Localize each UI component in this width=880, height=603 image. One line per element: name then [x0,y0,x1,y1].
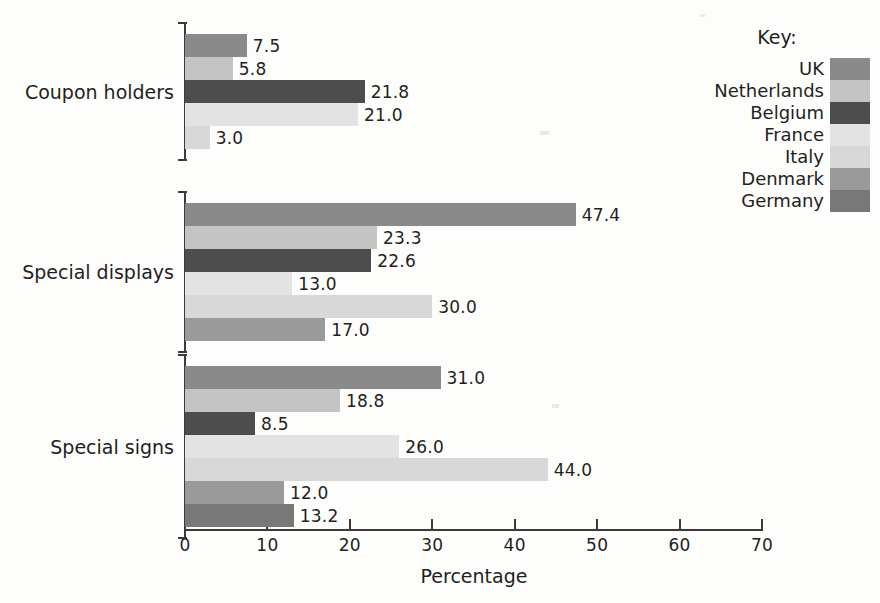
bar [185,80,365,103]
x-axis-tick-label: 40 [504,535,526,555]
x-axis-tick [514,519,516,530]
bar-value-label: 30.0 [438,297,477,317]
bar [185,203,576,226]
bar-value-label: 47.4 [582,205,621,225]
bar-value-label: 21.8 [371,82,410,102]
category-label: Special signs [50,436,174,458]
legend-swatches [830,58,870,212]
bar-value-label: 21.0 [364,105,403,125]
bar [185,272,292,295]
bar-value-label: 12.0 [290,483,329,503]
legend-item-label: Italy [714,146,830,168]
y-axis-cap [178,22,187,24]
x-axis-tick-label: 50 [586,535,608,555]
legend-swatch [830,190,870,212]
bar [185,458,548,481]
x-axis-tick-label: 60 [668,535,690,555]
x-axis-tick-label: 30 [421,535,443,555]
bar [185,34,247,57]
bar [185,249,371,272]
bar [185,103,358,126]
legend-swatch [830,102,870,124]
bar-value-label: 22.6 [377,251,416,271]
y-axis-cap [178,351,187,353]
legend-swatch [830,146,870,168]
legend-swatch [830,168,870,190]
bar-value-label: 13.0 [298,274,337,294]
bar [185,481,284,504]
bar-value-label: 23.3 [383,228,422,248]
bar-value-label: 13.2 [300,506,339,526]
bar [185,435,399,458]
y-axis-cap [178,159,187,161]
legend-item-label: Netherlands [714,80,830,102]
bar [185,226,377,249]
bar-value-label: 7.5 [253,36,281,56]
x-axis-tick [596,519,598,530]
bar-value-label: 18.8 [346,391,385,411]
x-axis-tick-label: 20 [339,535,361,555]
legend: Key: UKNetherlandsBelgiumFranceItalyDenm… [690,26,870,212]
legend-item-label: UK [714,58,830,80]
bar [185,126,210,149]
category-label: Coupon holders [25,81,174,103]
bar-value-label: 3.0 [216,128,244,148]
x-axis-line [185,529,763,531]
legend-swatch [830,58,870,80]
x-axis-tick [431,519,433,530]
bar [185,57,233,80]
legend-swatch [830,124,870,146]
legend-swatch [830,80,870,102]
bar-value-label: 17.0 [331,320,370,340]
y-axis-cap [178,354,187,356]
legend-item-label: France [714,124,830,146]
bar-value-label: 31.0 [447,368,486,388]
bar [185,295,432,318]
bar [185,504,294,527]
bar [185,412,255,435]
legend-title: Key: [690,26,870,48]
x-axis-tick-label: 10 [256,535,278,555]
bar [185,366,441,389]
y-axis-cap [178,537,187,539]
bar-value-label: 44.0 [554,460,593,480]
legend-item-label: Denmark [714,168,830,190]
y-axis-cap [178,191,187,193]
legend-item-label: Germany [714,190,830,212]
legend-body: UKNetherlandsBelgiumFranceItalyDenmarkGe… [690,58,870,212]
x-axis-tick [349,519,351,530]
chart-page: 010203040506070 7.55.821.821.03.047.423.… [0,0,880,603]
x-axis-tick-label: 70 [751,535,773,555]
x-axis-tick [679,519,681,530]
legend-item-label: Belgium [714,102,830,124]
category-label: Special displays [22,261,174,283]
x-axis-tick [761,519,763,530]
bar-value-label: 5.8 [239,59,267,79]
x-axis-title: Percentage [421,565,528,587]
bar-value-label: 26.0 [405,437,444,457]
bar-value-label: 8.5 [261,414,289,434]
bar [185,389,340,412]
legend-labels: UKNetherlandsBelgiumFranceItalyDenmarkGe… [714,58,830,212]
bar [185,318,325,341]
